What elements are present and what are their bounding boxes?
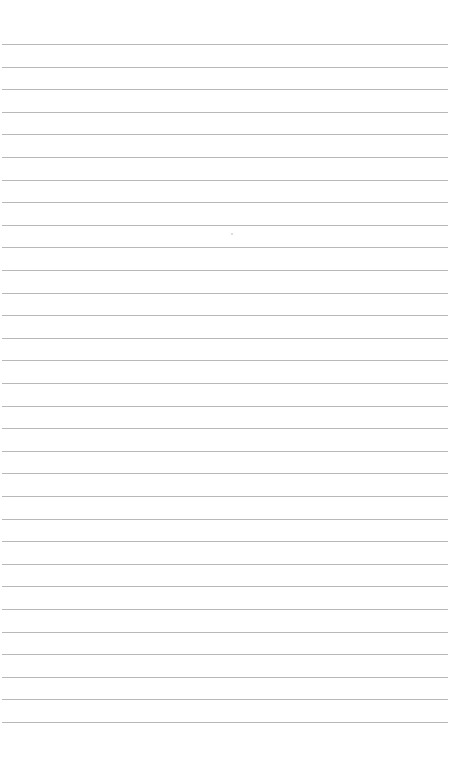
ruled-line bbox=[2, 699, 448, 700]
ruled-line bbox=[2, 134, 448, 135]
ruled-line bbox=[2, 293, 448, 294]
ruled-line bbox=[2, 338, 448, 339]
ruled-line bbox=[2, 89, 448, 90]
ruled-line bbox=[2, 473, 448, 474]
ruled-line bbox=[2, 609, 448, 610]
ruled-line bbox=[2, 519, 448, 520]
ruled-line bbox=[2, 451, 448, 452]
ruled-line bbox=[2, 654, 448, 655]
ruled-line bbox=[2, 315, 448, 316]
ruled-line bbox=[2, 202, 448, 203]
ruled-line bbox=[2, 541, 448, 542]
ruled-line bbox=[2, 225, 448, 226]
ruled-line bbox=[2, 247, 448, 248]
ruled-line bbox=[2, 67, 448, 68]
ruled-line bbox=[2, 157, 448, 158]
ruled-line bbox=[2, 44, 448, 45]
ruled-line bbox=[2, 112, 448, 113]
ruled-line bbox=[2, 406, 448, 407]
ruled-line bbox=[2, 383, 448, 384]
paper-speck bbox=[231, 233, 233, 235]
ruled-line bbox=[2, 564, 448, 565]
ruled-line bbox=[2, 360, 448, 361]
ruled-line bbox=[2, 586, 448, 587]
ruled-line bbox=[2, 677, 448, 678]
ruled-line bbox=[2, 180, 448, 181]
ruled-line bbox=[2, 428, 448, 429]
lined-paper-sheet bbox=[0, 0, 451, 781]
ruled-line bbox=[2, 270, 448, 271]
ruled-line bbox=[2, 632, 448, 633]
ruled-line bbox=[2, 722, 448, 723]
ruled-line bbox=[2, 496, 448, 497]
